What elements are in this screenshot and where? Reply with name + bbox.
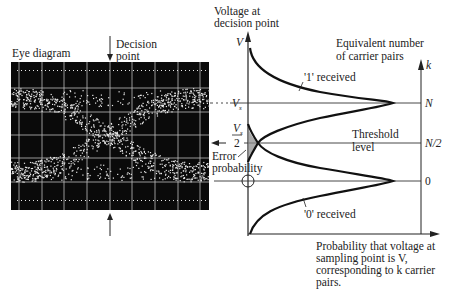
trace-dot	[19, 180, 20, 181]
trace-dot	[61, 180, 62, 181]
trace-dot	[134, 111, 135, 112]
trace-dot	[45, 161, 46, 162]
trace-dot	[11, 162, 12, 163]
trace-dot	[31, 170, 32, 171]
trace-dot	[113, 178, 114, 179]
trace-dot	[177, 96, 178, 97]
trace-dot	[119, 117, 120, 118]
trace-dot	[206, 178, 207, 179]
trace-dot	[63, 157, 64, 158]
error-probability-label-2: probability	[212, 162, 262, 175]
trace-dot	[122, 132, 123, 133]
trace-dot	[202, 99, 203, 100]
trace-dot	[75, 108, 76, 109]
trace-dot	[118, 101, 119, 102]
trace-dot	[165, 110, 166, 111]
trace-dot	[96, 130, 97, 131]
trace-dot	[14, 89, 15, 90]
trace-dot	[158, 101, 159, 102]
trace-dot	[185, 92, 186, 93]
trace-dot	[205, 178, 206, 179]
trace-dot	[59, 160, 60, 161]
trace-dot	[34, 108, 35, 109]
trace-dot	[126, 133, 127, 134]
trace-dot	[113, 133, 114, 134]
graticule-dot	[177, 200, 178, 201]
trace-dot	[96, 97, 97, 98]
trace-dot	[105, 130, 106, 131]
trace-dot	[91, 145, 92, 146]
trace-dot	[148, 151, 149, 152]
trace-dot	[145, 153, 146, 154]
trace-dot	[70, 119, 71, 120]
trace-dot	[34, 181, 35, 182]
trace-dot	[74, 115, 75, 116]
trace-dot	[170, 107, 171, 108]
trace-dot	[79, 121, 80, 122]
trace-dot	[87, 131, 88, 132]
trace-dot	[192, 102, 193, 103]
trace-dot	[72, 118, 73, 119]
trace-dot	[142, 176, 143, 177]
trace-dot	[35, 163, 36, 164]
trace-dot	[44, 174, 45, 175]
trace-dot	[150, 155, 151, 156]
trace-dot	[24, 177, 25, 178]
decision-point-label-2: point	[116, 50, 140, 63]
trace-dot	[81, 126, 82, 127]
trace-dot	[175, 175, 176, 176]
trace-dot	[176, 172, 177, 173]
trace-dot	[194, 104, 195, 105]
trace-dot	[103, 140, 104, 141]
trace-dot	[153, 100, 154, 101]
trace-dot	[78, 104, 79, 105]
trace-dot	[122, 130, 123, 131]
trace-dot	[113, 131, 114, 132]
trace-dot	[62, 165, 63, 166]
trace-dot	[17, 167, 18, 168]
trace-dot	[187, 179, 188, 180]
graticule-dot	[61, 70, 62, 71]
trace-dot	[176, 178, 177, 179]
trace-dot	[122, 144, 123, 145]
trace-dot	[188, 107, 189, 108]
graticule-dot	[165, 70, 166, 71]
trace-dot	[120, 169, 121, 170]
trace-dot	[182, 162, 183, 163]
trace-dot	[71, 115, 72, 116]
trace-dot	[190, 91, 191, 92]
threshold-label-1: Threshold	[352, 128, 399, 141]
trace-dot	[46, 159, 47, 160]
trace-dot	[101, 98, 102, 99]
trace-dot	[14, 103, 15, 104]
trace-dot	[117, 132, 118, 133]
trace-dot	[110, 145, 111, 146]
trace-dot	[150, 169, 151, 170]
trace-dot	[119, 142, 120, 143]
graticule-dot	[77, 200, 78, 201]
trace-dot	[69, 96, 70, 97]
trace-dot	[140, 160, 141, 161]
trace-dot	[71, 161, 72, 162]
trace-dot	[64, 109, 65, 110]
graticule-dot	[205, 200, 206, 201]
trace-dot	[86, 102, 87, 103]
k-tick-zero: 0	[425, 175, 431, 188]
trace-dot	[182, 89, 183, 90]
trace-dot	[75, 121, 76, 122]
trace-dot	[40, 100, 41, 101]
trace-dot	[187, 167, 188, 168]
trace-dot	[41, 160, 42, 161]
trace-dot	[59, 106, 60, 107]
graticule-dot	[173, 70, 174, 71]
trace-dot	[37, 172, 38, 173]
trace-dot	[64, 99, 65, 100]
trace-dot	[35, 107, 36, 108]
trace-dot	[184, 168, 185, 169]
trace-dot	[161, 111, 162, 112]
trace-dot	[99, 122, 100, 123]
trace-dot	[133, 167, 134, 168]
graticule-dot	[193, 200, 194, 201]
trace-dot	[138, 106, 139, 107]
graticule-dot	[149, 70, 150, 71]
